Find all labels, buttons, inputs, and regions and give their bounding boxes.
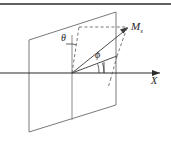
dashed-below-axis [108, 78, 111, 88]
geometry-diagram-svg [0, 0, 171, 146]
figure-container: θ ϕ Ms X [0, 0, 171, 146]
theta-angle-label: θ [61, 33, 66, 43]
x-axis-label: X [151, 76, 157, 86]
point-m-label: Ms [131, 21, 143, 35]
theta-angle-arc [72, 44, 76, 45]
dashed-drop-from-m [117, 28, 127, 56]
point-m-letter: M [131, 20, 140, 32]
phi-angle-arc-inner [98, 64, 99, 73]
dashed-origin-to-plane-top [72, 27, 79, 73]
phi-angle-label: ϕ [95, 50, 100, 60]
point-m-subscript: s [140, 27, 143, 35]
